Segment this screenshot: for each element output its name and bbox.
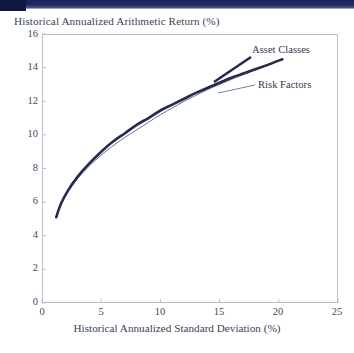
series-label-risk-factors: Risk Factors: [258, 79, 311, 90]
series-label-asset-classes: Asset Classes: [252, 44, 310, 55]
series-line-asset-classes: [56, 59, 282, 217]
series-layer: [56, 59, 282, 217]
leader-line-risk-factors: [218, 85, 255, 93]
chart-figure: Historical Annualized Arithmetic Return …: [0, 0, 354, 353]
annotation-leader-lines: [214, 57, 255, 93]
series-line-risk-factors: [56, 59, 282, 217]
